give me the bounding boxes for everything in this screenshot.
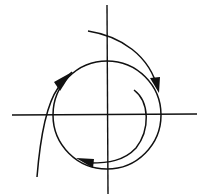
- diagram-canvas: [0, 0, 211, 194]
- y-axis: [107, 5, 108, 194]
- phase-portrait-diagram: [0, 0, 211, 194]
- background: [0, 0, 211, 194]
- x-axis: [12, 114, 197, 115]
